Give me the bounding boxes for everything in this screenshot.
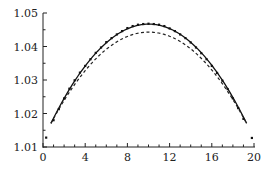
data-point-marker: [169, 27, 171, 29]
data-point-marker: [232, 97, 234, 99]
y-tick-label: 1.03: [14, 74, 39, 87]
data-point-marker: [190, 41, 192, 43]
dashed-curve: [51, 32, 247, 123]
x-tick-label: 12: [163, 151, 177, 164]
data-point-marker: [142, 23, 144, 25]
data-point-marker: [153, 23, 155, 25]
data-point-marker: [137, 24, 139, 26]
x-tick-label: 4: [82, 151, 89, 164]
data-point-marker: [74, 79, 76, 81]
data-point-marker: [58, 108, 60, 110]
x-tick-label: 20: [247, 151, 261, 164]
data-point-marker: [79, 72, 81, 74]
y-tick-label: 1.04: [14, 41, 39, 54]
data-point-marker: [221, 80, 223, 82]
data-point-marker: [195, 46, 197, 48]
data-point-marker: [158, 24, 160, 26]
axes: 0481216201.011.021.031.041.05: [14, 7, 262, 164]
line-chart: 0481216201.011.021.031.041.05: [0, 0, 271, 174]
data-point-marker: [63, 97, 65, 99]
data-point-marker: [95, 52, 97, 54]
data-point-marker: [89, 58, 91, 60]
data-point-marker: [84, 65, 86, 67]
data-point-marker: [237, 107, 239, 109]
data-point-marker: [68, 88, 70, 90]
x-tick-label: 0: [40, 151, 47, 164]
data-point-marker: [216, 72, 218, 74]
data-point-marker: [132, 25, 134, 27]
data-point-marker: [45, 137, 47, 139]
y-tick-label: 1.01: [14, 141, 39, 154]
data-point-marker: [126, 27, 128, 29]
x-tick-label: 16: [205, 151, 219, 164]
data-point-marker: [205, 58, 207, 60]
figure-caption: [0, 166, 271, 174]
data-point-marker: [100, 46, 102, 48]
x-tick-label: 8: [124, 151, 131, 164]
data-point-marker: [110, 37, 112, 39]
data-point-marker: [116, 33, 118, 35]
data-point-marker: [200, 52, 202, 54]
y-tick-label: 1.05: [14, 7, 39, 20]
data-point-marker: [242, 118, 244, 120]
data-point-marker: [105, 41, 107, 43]
data-point-marker: [147, 23, 149, 25]
data-point-marker: [163, 25, 165, 27]
data-point-marker: [227, 88, 229, 90]
data-point-marker: [251, 137, 253, 139]
data-point-marker: [179, 33, 181, 35]
data-point-marker: [52, 119, 54, 121]
y-tick-label: 1.02: [14, 108, 39, 121]
series-layer: [45, 23, 253, 139]
data-point-marker: [174, 30, 176, 32]
data-point-marker: [184, 37, 186, 39]
data-point-marker: [211, 65, 213, 67]
data-point-marker: [121, 30, 123, 32]
